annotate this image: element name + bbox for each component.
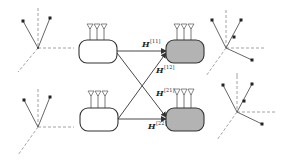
vector-endpoint (222, 84, 225, 87)
antenna-array (88, 91, 108, 108)
origin (37, 47, 39, 49)
signal-space-frame-right-bottom (217, 76, 275, 140)
antenna-array (87, 24, 107, 40)
signal-vector (38, 97, 50, 127)
antenna-icon (181, 89, 187, 95)
receiver-box (166, 40, 204, 63)
antenna-array (174, 89, 194, 108)
signal-vector (23, 21, 38, 48)
transmitter-2 (80, 91, 118, 131)
vector-endpoint (22, 20, 25, 23)
vector-endpoint (211, 19, 214, 22)
signal-vector (223, 85, 237, 112)
axis-depth (206, 48, 226, 76)
transmitter-box (80, 108, 118, 131)
vector-endpoint (251, 59, 254, 62)
channel-label-11: H[11] (142, 39, 160, 48)
signal-vector (212, 20, 226, 48)
antenna-icon (94, 24, 100, 29)
antenna-icon (188, 89, 194, 95)
signal-vector (226, 20, 241, 48)
vector-endpoint (49, 96, 52, 99)
channel-label-12: H[12] (156, 65, 174, 74)
antenna-icon (174, 24, 180, 29)
antenna-array (174, 24, 194, 40)
signal-space-frame-left-bottom (18, 89, 74, 155)
antenna-icon (101, 24, 107, 29)
transmitter-1 (79, 24, 117, 63)
vector-endpoint (243, 100, 246, 103)
signal-space-frame-right-top (206, 10, 264, 76)
vector-endpoint (240, 19, 243, 22)
receiver-1 (166, 24, 204, 63)
signal-vector (226, 48, 252, 60)
vector-endpoint (251, 83, 254, 86)
vector-endpoint (233, 36, 236, 39)
channel-label-21: H[21] (156, 88, 174, 97)
axis-depth (217, 112, 237, 140)
vector-endpoint (261, 123, 264, 126)
antenna-icon (88, 91, 94, 96)
signal-vector (237, 84, 252, 112)
antenna-icon (188, 24, 194, 29)
transmitter-box (79, 40, 117, 63)
vector-endpoint (23, 99, 26, 102)
interference-channel-diagram (0, 0, 285, 165)
signal-vector (237, 112, 262, 124)
antenna-icon (102, 91, 108, 96)
antenna-icon (95, 91, 101, 96)
vector-endpoint (49, 17, 52, 20)
signal-vector (38, 18, 50, 48)
axis-depth (18, 127, 38, 155)
axis-depth (18, 48, 38, 72)
signal-vector (24, 100, 38, 127)
antenna-icon (174, 89, 180, 95)
channel-links (117, 51, 166, 119)
antenna-icon (87, 24, 93, 29)
channel-label-22: H[22] (148, 121, 166, 130)
antenna-icon (181, 24, 187, 29)
receiver-box (166, 108, 204, 131)
signal-space-frame-left-top (18, 8, 74, 72)
